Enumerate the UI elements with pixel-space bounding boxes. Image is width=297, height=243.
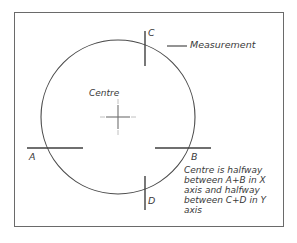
note-line-1: Centre is halfway: [184, 165, 282, 175]
label-point-b: B: [191, 152, 198, 163]
note-line-2: between A+B in X: [184, 175, 282, 185]
label-centre: Centre: [89, 88, 119, 98]
note-line-4: between C+D in Y: [184, 195, 282, 205]
figure-root: C D A B Centre Measurement Centre is hal…: [0, 0, 297, 243]
label-point-c: C: [148, 28, 155, 39]
note-line-5: axis: [184, 205, 282, 215]
explanatory-note: Centre is halfway between A+B in X axis …: [184, 165, 282, 215]
label-measurement: Measurement: [190, 40, 255, 51]
label-point-d: D: [148, 196, 155, 207]
centre-crosshair-icon: [100, 99, 136, 135]
label-point-a: A: [29, 152, 36, 163]
note-line-3: axis and halfway: [184, 185, 282, 195]
